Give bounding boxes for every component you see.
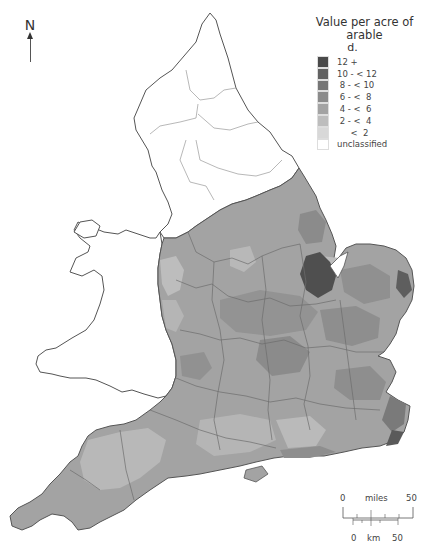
legend-item: 8 - < 10: [317, 80, 427, 92]
legend-swatch: [317, 56, 329, 68]
scale-km-label: km: [367, 533, 380, 543]
legend-item: 2 - < 4: [317, 115, 427, 127]
legend-label: 2 - < 4: [337, 116, 372, 126]
wales-region: [36, 222, 176, 398]
legend-item: < 2: [317, 127, 427, 139]
north-arrow-icon: [30, 36, 31, 62]
legend-swatch: [317, 80, 329, 92]
legend-label: 8 - < 10: [337, 80, 374, 90]
scale-km-start: 0: [351, 533, 356, 543]
scale-bar: 0 miles 50 0 km 50: [340, 490, 420, 530]
legend-swatch: [317, 103, 329, 115]
legend-item: 10 - < 12: [317, 68, 427, 80]
legend-swatch: [317, 115, 329, 127]
legend-swatch: [317, 91, 329, 103]
legend: Value per acre of arable d. 12 + 10 - < …: [302, 16, 427, 150]
legend-item: 12 +: [317, 56, 427, 68]
legend-label: unclassified: [337, 139, 387, 149]
scale-km-end: 50: [392, 533, 403, 543]
legend-swatch: [317, 68, 329, 80]
legend-unit: d.: [278, 42, 427, 54]
legend-label: 10 - < 12: [337, 69, 377, 79]
north-label: N: [22, 18, 38, 32]
scale-bar-graphic: [340, 490, 420, 530]
legend-item: 4 - < 6: [317, 103, 427, 115]
legend-label: 12 +: [337, 57, 358, 67]
legend-swatch: [317, 127, 329, 139]
legend-label: < 2: [337, 128, 368, 138]
legend-label: 6 - < 8: [337, 92, 372, 102]
legend-title: Value per acre of arable: [302, 16, 427, 42]
north-arrow: N: [22, 18, 38, 62]
isle-of-wight: [244, 466, 268, 482]
legend-item: 6 - < 8: [317, 91, 427, 103]
legend-swatch: [317, 139, 329, 151]
legend-item: unclassified: [317, 139, 427, 151]
legend-label: 4 - < 6: [337, 104, 372, 114]
